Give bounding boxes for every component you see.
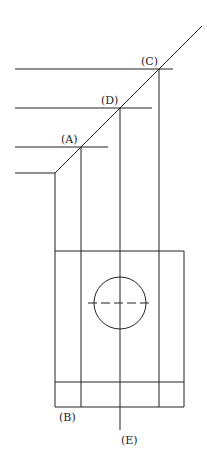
label-e: (E) [121,434,138,447]
projection-diagram: (C) (D) (A) (B) (E) [0,0,207,467]
label-c: (C) [141,55,158,68]
label-a: (A) [61,133,78,146]
label-b: (B) [59,411,76,424]
label-d: (D) [101,94,118,107]
